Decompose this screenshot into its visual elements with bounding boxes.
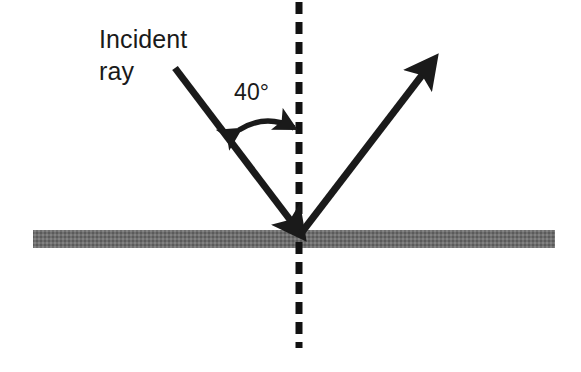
reflected-ray-arrow [302,70,426,232]
angle-arc-double-arrow [239,121,294,130]
angle-of-incidence-label: 40° [234,78,269,107]
mirror-surface-bar [33,230,555,248]
incident-ray-label: Incident ray [99,24,187,87]
diagram-canvas [0,0,581,372]
reflection-diagram: Incident ray 40° [0,0,581,372]
